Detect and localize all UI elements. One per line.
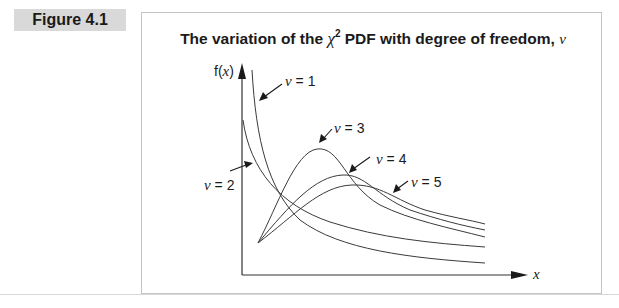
y-axis-arrow-icon <box>238 63 246 79</box>
x-axis-arrow-icon <box>511 271 528 279</box>
svg-text:ν = 3: ν = 3 <box>334 120 365 136</box>
annotation-nu-5: ν = 5 <box>393 174 442 193</box>
arrow-icon <box>244 161 253 168</box>
annotation-nu-1: ν = 1 <box>259 73 316 101</box>
svg-text:ν = 5: ν = 5 <box>411 174 442 190</box>
svg-text:ν = 4: ν = 4 <box>376 151 407 167</box>
curve-nu-1 <box>252 70 485 263</box>
svg-text:ν = 2: ν = 2 <box>204 177 235 193</box>
annotation-nu-3: ν = 3 <box>319 120 365 143</box>
chi-square-chart: The variation of the χ2 PDF with degree … <box>0 0 619 308</box>
curve-nu-3 <box>258 149 485 243</box>
annotation-nu-2: ν = 2 <box>204 161 253 193</box>
curve-nu-5 <box>258 185 485 243</box>
arrow-icon <box>393 184 401 193</box>
x-axis-label: x <box>532 266 540 282</box>
curves <box>243 70 485 263</box>
chart-title: The variation of the χ2 PDF with degree … <box>180 28 566 48</box>
arrow-icon <box>349 164 357 173</box>
annotation-nu-4: ν = 4 <box>349 151 407 173</box>
y-axis-label: f(x) <box>214 63 234 79</box>
svg-text:ν = 1: ν = 1 <box>285 73 316 89</box>
arrow-icon <box>259 92 268 101</box>
